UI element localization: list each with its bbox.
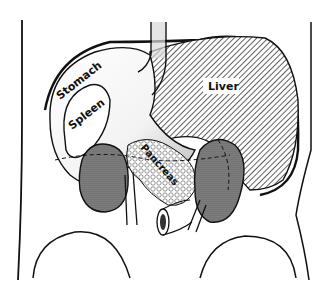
label-liver: Liver (208, 80, 239, 93)
pelvis-right (200, 236, 296, 278)
esophagus-fill (152, 22, 165, 58)
kidney-right (195, 140, 244, 223)
anatomy-diagram: Stomach Spleen Liver Pancreas (0, 0, 329, 293)
pelvis-left (33, 232, 130, 278)
intestine-lumen (160, 214, 166, 230)
body-outline-left (18, 20, 22, 280)
